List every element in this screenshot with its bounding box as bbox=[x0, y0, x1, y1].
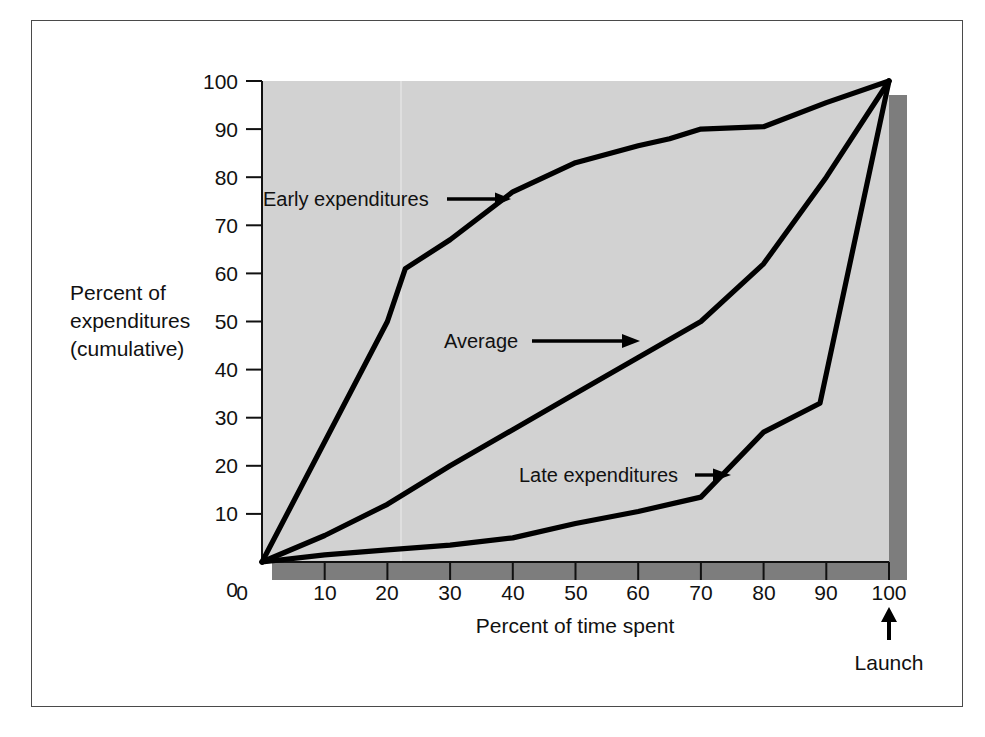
y-tick-label-70: 70 bbox=[215, 214, 238, 237]
y-axis-ticks bbox=[246, 81, 262, 514]
y-tick-label-80: 80 bbox=[215, 166, 238, 189]
y-tick-label-40: 40 bbox=[215, 358, 238, 381]
scan-artifact-streak bbox=[400, 81, 402, 562]
series-annotation-early-expenditures: Early expenditures bbox=[263, 188, 429, 210]
y-tick-label-20: 20 bbox=[215, 454, 238, 477]
y-tick-label-10: 10 bbox=[215, 502, 238, 525]
launch-label: Launch bbox=[855, 651, 924, 674]
x-tick-label-30: 30 bbox=[438, 581, 461, 604]
x-tick-label-80: 80 bbox=[752, 581, 775, 604]
y-tick-label-100: 100 bbox=[203, 70, 238, 93]
x-axis-title: Percent of time spent bbox=[476, 614, 675, 637]
y-axis-title-line-1: Percent of bbox=[70, 281, 166, 304]
y-tick-label-30: 30 bbox=[215, 406, 238, 429]
x-tick-label-60: 60 bbox=[626, 581, 649, 604]
y-tick-label-90: 90 bbox=[215, 118, 238, 141]
x-tick-label-20: 20 bbox=[375, 581, 398, 604]
plot-shadow-right bbox=[889, 95, 907, 580]
series-annotation-average: Average bbox=[444, 330, 518, 352]
x-tick-label-0: 0 bbox=[236, 581, 248, 604]
series-annotation-late-expenditures: Late expenditures bbox=[519, 464, 678, 486]
plot-shadow-bottom bbox=[272, 562, 907, 580]
launch-up-arrow-icon bbox=[881, 607, 897, 640]
y-tick-label-50: 50 bbox=[215, 310, 238, 333]
y-axis-title-line-3: (cumulative) bbox=[70, 337, 184, 360]
x-tick-label-40: 40 bbox=[501, 581, 524, 604]
y-axis-title-line-2: expenditures bbox=[70, 309, 190, 332]
expenditure-curve-chart: 100 90 80 70 60 50 40 30 20 10 0 0 10 20… bbox=[0, 0, 985, 737]
x-tick-label-70: 70 bbox=[689, 581, 712, 604]
y-tick-label-60: 60 bbox=[215, 262, 238, 285]
x-tick-label-90: 90 bbox=[814, 581, 837, 604]
x-tick-label-50: 50 bbox=[564, 581, 587, 604]
plot-area-background bbox=[262, 81, 889, 562]
x-tick-label-10: 10 bbox=[313, 581, 336, 604]
x-tick-label-100: 100 bbox=[871, 581, 906, 604]
